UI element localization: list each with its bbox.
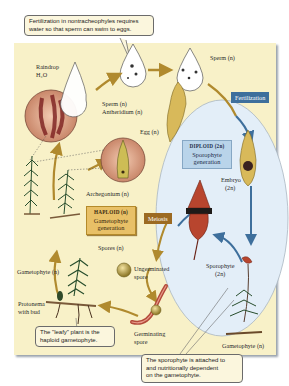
label-egg: Egg (n) — [140, 128, 159, 135]
diploid-region — [156, 100, 288, 336]
label-gametophyte-left: Gametophyte (n) — [17, 268, 59, 275]
label-h2o: H₂O — [36, 71, 47, 78]
label-ungerminated-1: Ungerminated — [134, 265, 169, 272]
label-germinating-2: spore — [134, 338, 147, 345]
label-spores: Spores (n) — [98, 244, 124, 251]
label-archegonium: Archegonium (n) — [86, 190, 129, 197]
ungerminated-spore — [117, 263, 131, 277]
label-ungerminated-2: spore — [134, 273, 147, 280]
callout-sporophyte-dependent: The sporophyte is attached to and nutrit… — [141, 354, 243, 383]
haploid-generation-box: HAPLOID (n) Gametophyte generation — [86, 206, 136, 235]
label-sperm-top: Sperm (n) — [210, 54, 235, 61]
label-protonema-1: Protonema — [18, 300, 45, 307]
label-gametophyte-right: Gametophyte (n) — [222, 342, 264, 349]
callout-leafy-plant: The "leafy" plant is the haploid gametop… — [35, 326, 115, 347]
raindrop-icon — [61, 62, 87, 117]
label-sporophyte: Sporophyte — [206, 262, 235, 269]
label-raindrop: Raindrop — [36, 63, 59, 70]
label-antheridium: Antheridium (n) — [102, 108, 142, 115]
label-embryo: Embryo — [221, 176, 241, 183]
label-sperm-antheridium: Sperm (n) — [102, 100, 127, 107]
meiosis-tag: Meiosis — [144, 213, 172, 224]
label-protonema-2: with bud — [18, 308, 40, 315]
label-sporophyte-ploidy: (2n) — [215, 270, 225, 277]
label-embryo-ploidy: (2n) — [225, 184, 235, 191]
fertilization-tag: Fertilization — [231, 92, 269, 103]
gametophyte-left-plant — [24, 156, 40, 214]
diploid-generation-box: DIPLOID (2n) Sporophyte generation — [182, 140, 232, 169]
label-germinating-1: Germinating — [134, 330, 165, 337]
callout-fertilization-water: Fertilization in nontracheophyles requir… — [24, 15, 154, 36]
